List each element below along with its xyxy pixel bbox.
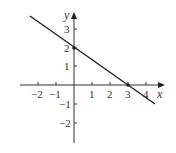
x-intercept-point — [126, 83, 130, 87]
x-tick-label: −2 — [31, 88, 43, 100]
x-tick-label: 3 — [125, 88, 131, 100]
x-tick-label: 1 — [89, 88, 95, 100]
y-intercept-point — [72, 46, 76, 50]
y-tick-label: −2 — [59, 117, 71, 129]
x-tick-label: 2 — [107, 88, 113, 100]
x-axis-label: x — [156, 87, 163, 101]
y-tick-label: −1 — [59, 98, 71, 110]
y-axis-arrow-icon — [71, 12, 77, 19]
y-tick-label: 3 — [64, 23, 70, 35]
y-tick-label: 1 — [64, 60, 70, 72]
coordinate-graph: −2 −1 1 2 3 4 3 2 1 −1 −2 x y — [0, 0, 176, 153]
y-axis-label: y — [63, 8, 70, 22]
